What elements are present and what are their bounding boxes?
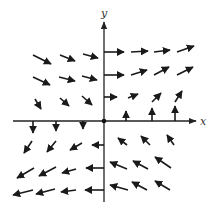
vector-arrow-icon bbox=[131, 70, 147, 75]
vector-arrow-icon bbox=[59, 77, 75, 81]
vector-arrow-icon bbox=[167, 135, 174, 145]
vector-arrow-icon bbox=[110, 162, 127, 169]
vector-arrow-icon bbox=[17, 168, 34, 178]
vector-arrow-icon bbox=[118, 138, 127, 145]
y-axis-label: y bbox=[100, 7, 108, 20]
vector-arrow-icon bbox=[35, 99, 41, 109]
x-axis-label: x bbox=[200, 115, 207, 128]
vector-arrow-icon bbox=[155, 181, 170, 190]
vector-arrow-icon bbox=[83, 54, 98, 58]
vector-arrow-icon bbox=[33, 55, 51, 64]
vector-arrow-icon bbox=[152, 93, 161, 102]
vector-arrow-icon bbox=[60, 98, 69, 106]
vector-arrow-icon bbox=[60, 55, 75, 61]
vector-arrow-icon bbox=[177, 67, 193, 75]
vector-arrow-icon bbox=[154, 50, 170, 52]
vector-arrow-icon bbox=[128, 94, 138, 98]
vector-arrow-icon bbox=[39, 167, 56, 176]
vector-arrow-icon bbox=[82, 76, 97, 80]
vector-arrow-icon bbox=[132, 182, 147, 190]
vector-arrow-icon bbox=[177, 46, 194, 52]
vector-arrow-icon bbox=[175, 91, 182, 102]
vector-arrow-icon bbox=[62, 169, 76, 173]
vector-arrow-icon bbox=[141, 136, 150, 145]
vector-arrow-icon bbox=[36, 189, 55, 194]
vector-arrow-icon bbox=[155, 157, 171, 168]
vector-arrow-icon bbox=[154, 67, 169, 75]
vector-arrow-icon bbox=[13, 190, 33, 195]
vector-arrow-icon bbox=[131, 51, 148, 52]
axes: x y bbox=[13, 7, 207, 202]
vector-arrow-icon bbox=[110, 185, 128, 190]
vector-arrow-icon bbox=[33, 77, 50, 85]
vector-arrow-icon bbox=[70, 143, 82, 150]
vector-field-diagram: x y bbox=[0, 0, 216, 209]
vector-arrow-icon bbox=[24, 141, 32, 153]
vector-arrow-icon bbox=[82, 96, 92, 105]
origin-dot bbox=[102, 119, 107, 124]
vector-arrow-icon bbox=[61, 190, 76, 192]
vector-arrow-icon bbox=[47, 141, 56, 152]
vector-arrow-icon bbox=[133, 161, 148, 169]
